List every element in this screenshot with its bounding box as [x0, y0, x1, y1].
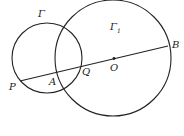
label-gamma1-main: Γ [110, 21, 117, 32]
label-gamma1-sub: 1 [117, 27, 121, 34]
geometry-diagram: Γ Γ1 B O Q A P [0, 0, 184, 136]
label-gamma: Γ [38, 9, 45, 19]
label-O: O [110, 63, 118, 73]
label-gamma1: Γ1 [110, 22, 121, 34]
point-O-dot [113, 57, 116, 60]
diagram-svg [0, 0, 184, 136]
segment-PB [20, 46, 168, 81]
label-A: A [49, 77, 56, 87]
label-Q: Q [82, 67, 90, 77]
label-P: P [9, 82, 16, 92]
circle-gamma [12, 23, 82, 93]
label-B: B [172, 40, 179, 50]
